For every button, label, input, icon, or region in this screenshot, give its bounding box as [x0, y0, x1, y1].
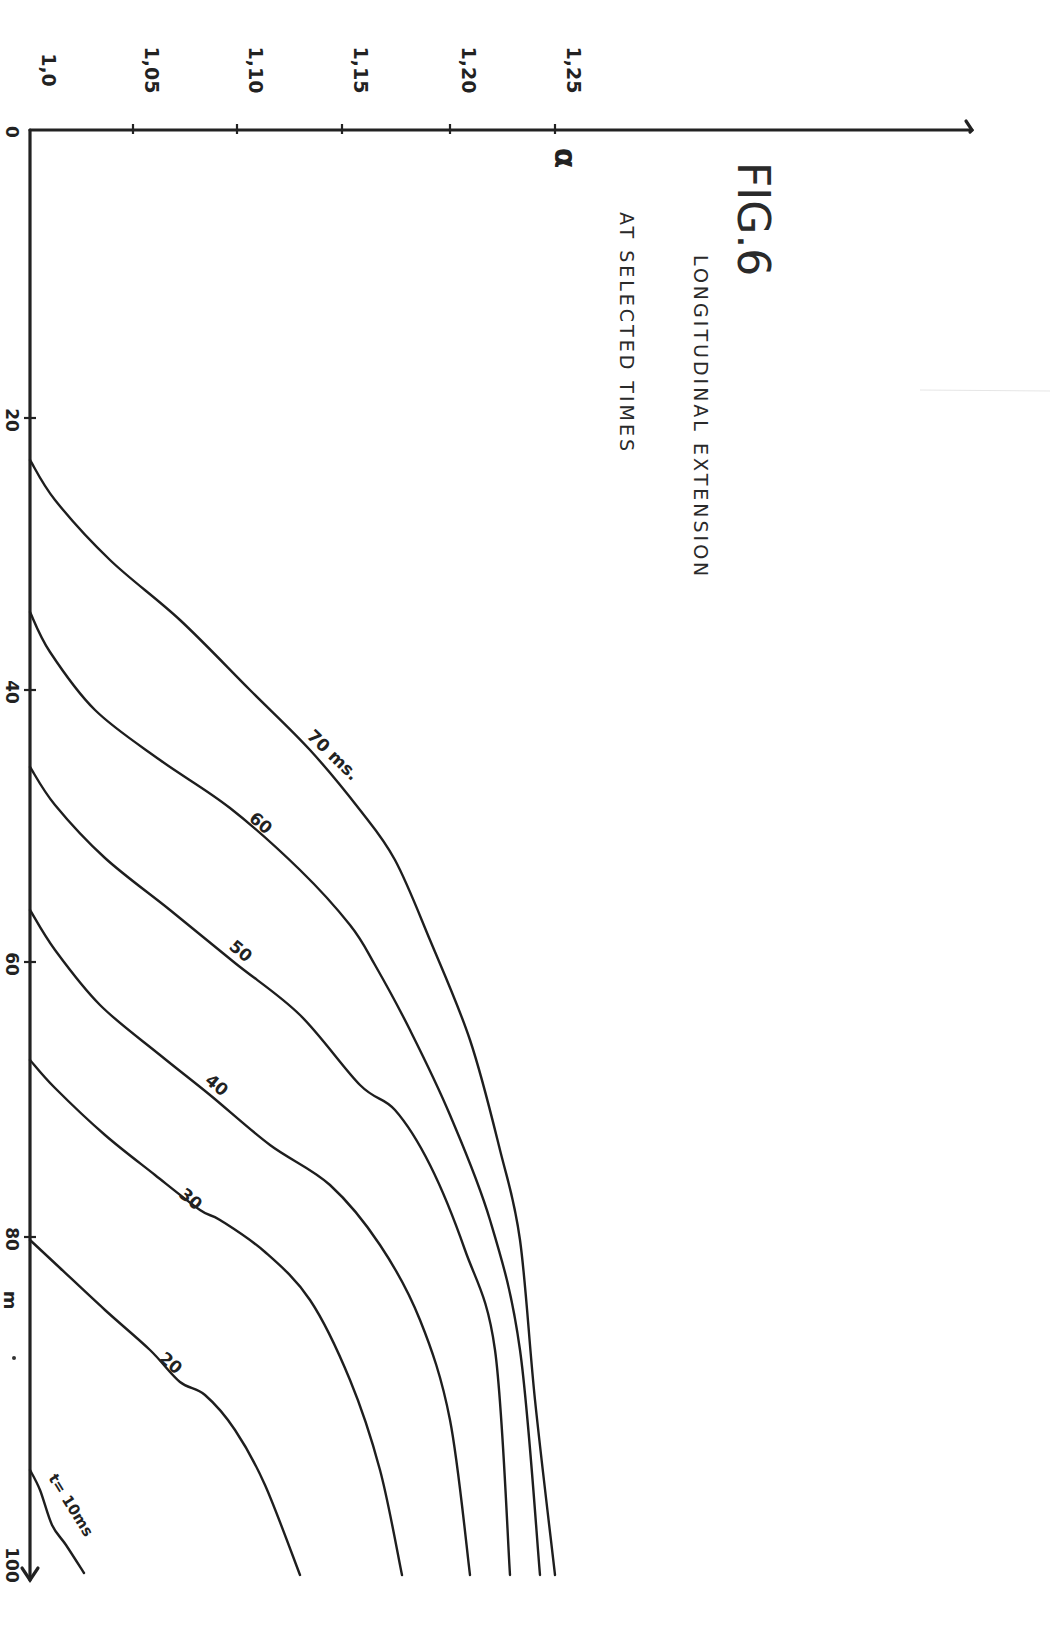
curve-line-t20 — [30, 1240, 300, 1575]
curve-label-t50: 50 — [225, 936, 256, 967]
curve-t20: 20 — [30, 1240, 300, 1575]
curve-label-t60: 60 — [245, 808, 276, 839]
alpha-tick-label: 1,10 — [245, 47, 267, 94]
alpha-tick-label: 1,0 — [38, 53, 60, 87]
scan-artifact-line — [920, 390, 1050, 391]
alpha-axis-ticks: 1,01,051,101,151,201,25 — [38, 47, 585, 134]
position-tick-label: 40 — [2, 680, 22, 704]
position-tick-label: 0 — [2, 126, 22, 138]
time-curves: t= 10ms203040506070 ms. — [30, 460, 555, 1575]
position-axis-label: m — [0, 1291, 21, 1310]
curve-line-t40 — [30, 910, 470, 1575]
curve-t10: t= 10ms — [30, 1470, 97, 1573]
curve-t70: 70 ms. — [30, 460, 555, 1575]
alpha-axis-label: α — [548, 148, 583, 169]
curve-line-t50 — [30, 767, 510, 1575]
position-axis-dot — [12, 1356, 16, 1360]
alpha-tick-label: 1,15 — [350, 47, 372, 94]
figure-title-line2: AT SELECTED TIMES — [616, 212, 638, 454]
alpha-tick-label: 1,05 — [141, 47, 163, 94]
alpha-axis: 1,01,051,101,151,201,25 α — [30, 47, 972, 169]
alpha-tick-label: 1,20 — [458, 47, 480, 94]
curve-line-t70 — [30, 460, 555, 1575]
curve-label-t30: 30 — [175, 1184, 206, 1215]
position-tick-label: 60 — [2, 952, 22, 976]
curve-label-t10: t= 10ms — [45, 1471, 98, 1540]
position-axis: 020406080100 m — [0, 126, 38, 1583]
curve-t30: 30 — [30, 1060, 402, 1575]
curve-t50: 50 — [30, 767, 510, 1575]
figure-title-line1: LONGITUDINAL EXTENSION — [690, 255, 712, 579]
figure-number: FIG.6 — [728, 162, 779, 276]
alpha-tick-label: 1,25 — [563, 47, 585, 94]
position-tick-label: 100 — [2, 1547, 22, 1583]
curve-line-t30 — [30, 1060, 402, 1575]
figure-title-block: FIG.6 LONGITUDINAL EXTENSION AT SELECTED… — [616, 162, 779, 579]
curve-t40: 40 — [30, 910, 470, 1575]
position-tick-label: 80 — [2, 1227, 22, 1251]
curve-label-t20: 20 — [155, 1348, 186, 1379]
curve-line-t60 — [30, 612, 540, 1575]
curve-label-t40: 40 — [201, 1070, 232, 1101]
position-tick-label: 20 — [2, 408, 22, 432]
curve-t60: 60 — [30, 612, 540, 1575]
figure-canvas: 1,01,051,101,151,201,25 α 020406080100 m… — [0, 0, 1053, 1633]
